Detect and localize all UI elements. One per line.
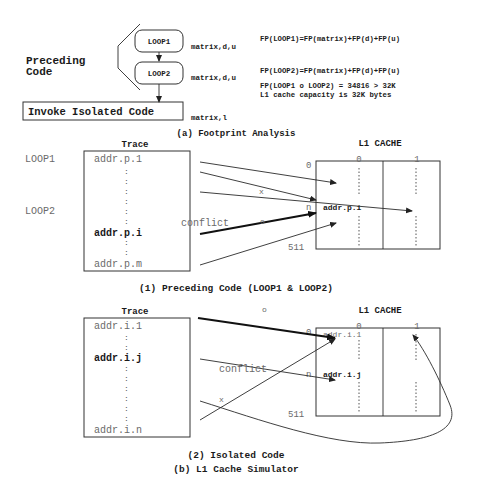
trace-title: Trace [121,307,148,317]
svg-text::: : [124,394,129,403]
x-mark: x [259,187,264,196]
svg-text::: : [124,207,129,216]
cache-entry-n: addr.i.j [323,370,361,379]
figure-caption: (b) L1 Cache Simulator [173,464,299,475]
set0-label: 0 [306,161,311,171]
svg-text::: : [124,217,129,226]
top-mapping-arrow [198,318,335,338]
trace-box [84,151,190,271]
setn-label: n [306,203,311,213]
invoke-vars: matrix,l [191,114,228,122]
set511-label: 511 [288,410,304,420]
svg-text::: : [124,197,129,206]
trace-title: Trace [121,140,148,150]
preceding-caption: (1) Preceding Code (LOOP1 & LOOP2) [139,283,333,294]
svg-text::: : [124,364,129,373]
footprint-caption: (a) Footprint Analysis [177,129,296,139]
cache-capacity-note: L1 cache capacity is 32K bytes [260,91,391,99]
x-mark: x [219,395,224,404]
trace-first-addr: addr.p.1 [94,154,142,165]
way1-label: 1 [414,322,419,332]
trace-first-addr: addr.i.1 [94,321,142,332]
cache-title: L1 CACHE [358,139,402,149]
loop2-vars: matrix,d,u [191,74,236,82]
fp-loop2-equation: FP(LOOP2)=FP(matrix)+FP(d)+FP(u) [260,67,400,75]
fp-combined-equation: FP(LOOP1 o LOOP2) = 34816 > 32K [260,82,396,90]
svg-text::: : [124,177,129,186]
code-label: Code [26,66,53,78]
svg-text::: : [124,238,129,247]
svg-text::: : [124,248,129,257]
cache-footprint-figure: Preceding Code LOOP1 LOOP2 Invoke Isolat… [0,0,478,499]
svg-text::: : [124,374,129,383]
way1-label: 1 [414,155,419,165]
fp-loop1-equation: FP(LOOP1)=FP(matrix)+FP(d)+FP(u) [260,35,400,43]
trace-ellipsis: : : : : : : : : [124,333,129,423]
loop1-vars: matrix,d,u [191,43,236,51]
mapping-arrow [200,172,316,200]
loop1-label: LOOP1 [148,38,171,46]
way0-label: 0 [356,155,361,165]
cache-title: L1 CACHE [358,306,402,316]
loop2-label: LOOP2 [148,70,171,78]
preceding-code-simulation: Trace L1 CACHE LOOP1 LOOP2 addr.p.1 : : … [25,139,440,294]
invoke-label: Invoke Isolated Code [28,106,154,118]
trace-conflict-addr: addr.i.j [94,353,142,364]
conflict-mark: o [260,217,265,226]
svg-text::: : [124,404,129,413]
trace-box [84,318,190,437]
loop2-trace-label: LOOP2 [25,206,55,217]
isolated-code-simulation: Trace L1 CACHE addr.i.1 : : : : : : : : … [84,305,452,461]
loop1-trace-label: LOOP1 [25,154,55,165]
cache-ellipsis [359,334,416,413]
o-mark: o [262,305,267,314]
isolated-caption: (2) Isolated Code [188,450,285,461]
svg-text::: : [124,343,129,352]
footprint-analysis: Preceding Code LOOP1 LOOP2 Invoke Isolat… [23,24,400,139]
trace-ellipsis: : : : : : : : : [124,167,129,257]
conflict-label: conflict [181,218,229,229]
set511-label: 511 [288,243,304,253]
svg-text::: : [124,414,129,423]
conflict-label: conflict [219,364,267,375]
trace-conflict-addr: addr.p.i [94,228,142,239]
setn-label: n [306,370,311,380]
trace-last-addr: addr.i.n [94,425,142,436]
svg-text::: : [124,333,129,342]
wraparound-arrow [200,335,452,443]
trace-last-addr: addr.p.m [94,259,142,270]
preceding-code-bracket [118,24,140,90]
svg-text::: : [124,384,129,393]
svg-text::: : [124,167,129,176]
svg-text::: : [124,187,129,196]
